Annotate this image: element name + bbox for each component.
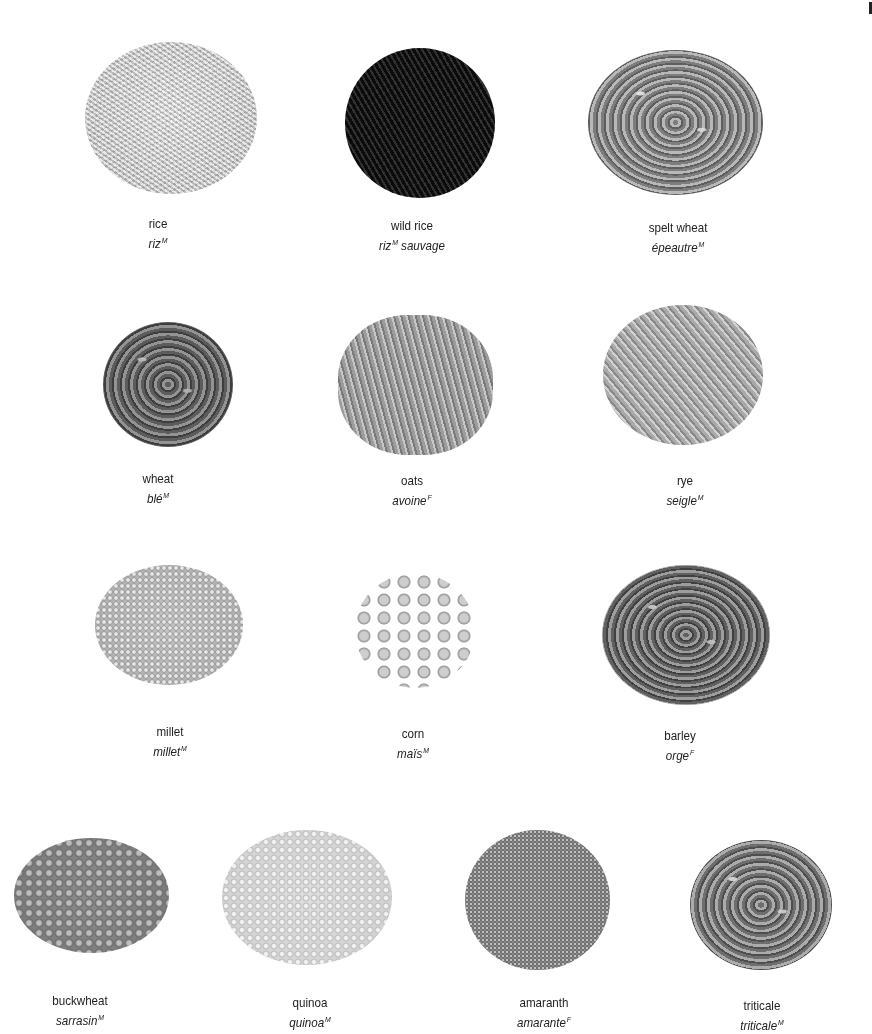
quinoa-image [222,830,392,965]
french-name: rizM sauvage [326,234,498,254]
grain-label-spelt-wheat: spelt wheat épeautreM [592,219,764,256]
grain-label-buckwheat: buckwheat sarrasinM [0,992,166,1029]
english-name: rye [599,472,771,489]
grain-label-triticale: triticale triticaleM [676,997,848,1034]
grain-label-wheat: wheat bléM [72,470,244,507]
spelt-wheat-image [588,50,763,195]
english-name: spelt wheat [592,219,764,236]
english-name: amaranth [458,994,630,1011]
french-name: rizM [72,232,244,252]
french-name: sarrasinM [0,1009,166,1029]
french-name: épeautreM [592,236,764,256]
grain-label-rye: rye seigleM [599,472,771,509]
grain-label-rice: rice rizM [72,215,244,252]
grain-label-barley: barley orgeF [594,727,766,764]
grain-label-millet: millet milletM [84,723,256,760]
grain-label-quinoa: quinoa quinoaM [224,994,396,1031]
grain-label-oats: oats avoineF [326,472,498,509]
english-name: wild rice [326,217,498,234]
french-name: milletM [84,740,256,760]
english-name: buckwheat [0,992,166,1009]
grain-label-amaranth: amaranth amaranteF [458,994,630,1031]
english-name: barley [594,727,766,744]
english-name: rice [72,215,244,232]
wild-rice-image [345,48,495,198]
english-name: wheat [72,470,244,487]
triticale-image [690,840,832,970]
rye-image [603,305,763,445]
rice-image [85,42,257,194]
french-name: triticaleM [676,1014,848,1034]
grain-label-wild-rice: wild rice rizM sauvage [326,217,498,254]
amaranth-image [465,830,610,970]
buckwheat-image [14,838,169,953]
grain-label-corn: corn maïsM [327,725,499,762]
french-name: orgeF [594,744,766,764]
french-name: seigleM [599,489,771,509]
french-name: maïsM [327,742,499,762]
french-name: quinoaM [224,1011,396,1031]
french-name: amaranteF [458,1011,630,1031]
barley-image [602,565,770,705]
oats-image [338,315,493,455]
english-name: quinoa [224,994,396,1011]
english-name: oats [326,472,498,489]
french-name: avoineF [326,489,498,509]
wheat-image [103,322,233,447]
english-name: triticale [676,997,848,1014]
english-name: corn [327,725,499,742]
corn-image [355,573,475,688]
french-name: bléM [72,487,244,507]
english-name: millet [84,723,256,740]
millet-image [95,565,243,685]
